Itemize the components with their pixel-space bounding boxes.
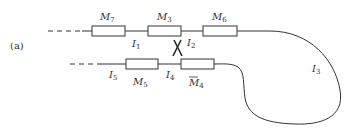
module-box-m5: [126, 59, 158, 69]
label-i5: I5: [108, 69, 117, 82]
crossing-x-icon: [173, 40, 182, 56]
module-box-m3: [148, 26, 181, 36]
label-m6: M6: [211, 11, 227, 24]
svg-text:M4: M4: [188, 77, 204, 90]
bottom-strand: [70, 59, 214, 69]
label-m5: M5: [132, 76, 148, 89]
label-m4bar: M4: [188, 77, 204, 90]
module-box-m4bar: [181, 59, 214, 69]
module-box-m7: [92, 26, 125, 36]
label-i3: I3: [311, 63, 320, 76]
label-i2: I2: [186, 37, 195, 50]
loop-curve: [214, 31, 341, 124]
module-box-m6: [203, 26, 237, 36]
label-m7: M7: [99, 11, 115, 24]
label-i4: I4: [165, 69, 175, 82]
label-i1: I1: [131, 38, 140, 51]
diagram-canvas: (a) M7 M3 M6 M5 M4 I1 I2 I3 I4 I5: [0, 0, 359, 138]
top-strand: [48, 26, 270, 36]
label-m3: M3: [156, 11, 172, 24]
panel-label: (a): [10, 40, 24, 51]
